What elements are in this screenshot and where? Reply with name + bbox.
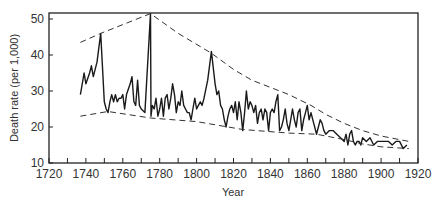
x-tick-label: 1920 — [405, 167, 432, 181]
x-tick-label: 1780 — [146, 167, 173, 181]
death-rate-chart: 1720174017601780180018201840186018801900… — [0, 0, 441, 210]
series-layer — [80, 14, 408, 149]
x-tick-label: 1740 — [73, 167, 100, 181]
upper-envelope-line — [80, 14, 408, 142]
y-tick-label: 40 — [31, 48, 45, 62]
x-tick-label: 1900 — [368, 167, 395, 181]
plot-frame — [49, 13, 418, 163]
y-axis-label: Death rate (per 1,000) — [8, 34, 20, 142]
x-tick-label: 1840 — [257, 167, 284, 181]
y-tick-label: 50 — [31, 12, 45, 26]
x-tick-label: 1860 — [294, 167, 321, 181]
y-tick-label: 20 — [31, 120, 45, 134]
x-axis-label: Year — [222, 186, 245, 198]
y-tick-label: 30 — [31, 84, 45, 98]
x-axis-ticks: 1720174017601780180018201840186018801900… — [36, 158, 432, 181]
y-tick-label: 10 — [31, 156, 45, 170]
x-tick-label: 1820 — [220, 167, 247, 181]
x-tick-label: 1880 — [331, 167, 358, 181]
x-tick-label: 1800 — [183, 167, 210, 181]
x-tick-label: 1760 — [109, 167, 136, 181]
